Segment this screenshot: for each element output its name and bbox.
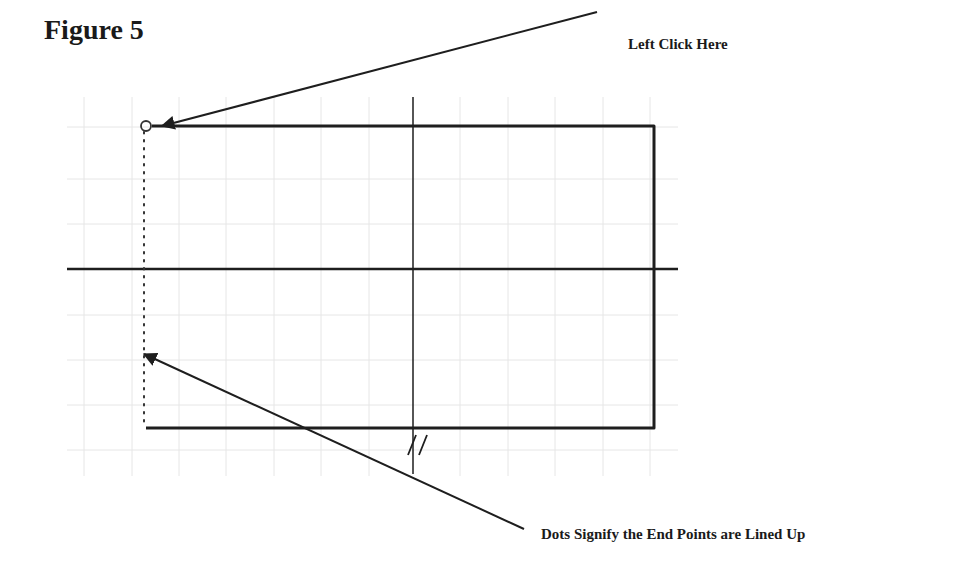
arrow-dots-lined-up xyxy=(144,354,524,529)
break-marks-icon xyxy=(408,435,427,455)
endpoint-circle-icon[interactable] xyxy=(141,121,151,131)
grid xyxy=(67,97,678,476)
rectangle-outline xyxy=(146,126,654,428)
cad-drawing xyxy=(0,0,963,585)
arrow-left-click-here xyxy=(162,12,597,126)
